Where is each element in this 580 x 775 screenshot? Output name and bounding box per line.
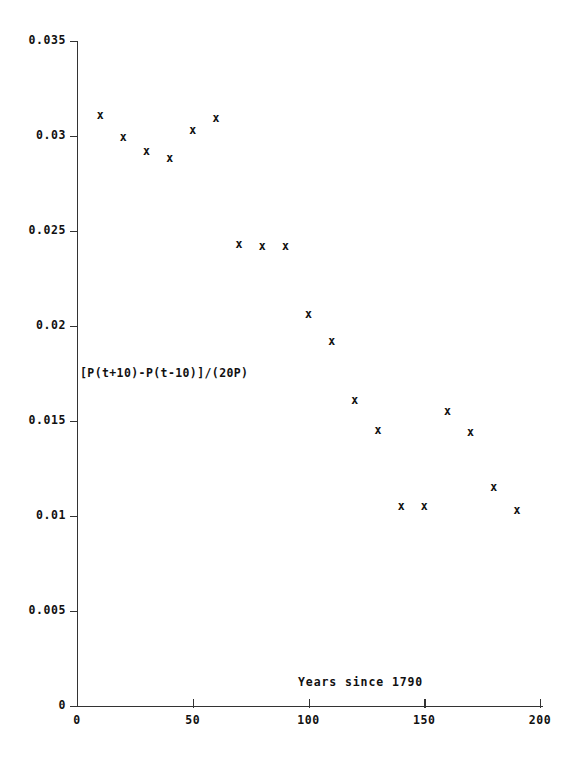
x-axis-tick: [424, 699, 425, 708]
data-point-marker: x: [465, 426, 477, 439]
data-point-marker: x: [349, 394, 361, 407]
data-point-marker: x: [511, 504, 523, 517]
y-axis-tick: [70, 421, 78, 422]
y-axis-tick: [70, 706, 78, 707]
data-point-marker: x: [187, 124, 199, 137]
y-axis-tick: [70, 611, 78, 612]
x-axis-tick: [193, 699, 194, 708]
y-axis-tick-label: 0: [0, 700, 66, 712]
x-axis-tick: [309, 699, 310, 708]
y-axis-tick: [70, 326, 78, 327]
data-point-marker: x: [418, 500, 430, 513]
y-axis-tick: [70, 136, 78, 137]
y-axis-line: [77, 41, 78, 707]
x-axis-tick-label: 0: [47, 715, 107, 727]
x-axis-tick-label: 150: [394, 715, 454, 727]
y-axis-tick-label: 0.02: [0, 320, 66, 332]
y-axis-tick-label: 0.01: [0, 510, 66, 522]
x-axis-line: [77, 706, 543, 707]
y-axis-tick-label: 0.005: [0, 605, 66, 617]
x-axis-tick-label: 200: [510, 715, 570, 727]
y-axis-label: [P(t+10)-P(t-10)]/(20P): [80, 366, 248, 380]
data-point-marker: x: [164, 152, 176, 165]
y-axis-tick: [70, 231, 78, 232]
data-point-marker: x: [303, 308, 315, 321]
y-axis-tick-label: 0.035: [0, 35, 66, 47]
data-point-marker: x: [117, 131, 129, 144]
data-point-marker: x: [279, 240, 291, 253]
data-point-marker: x: [210, 112, 222, 125]
data-point-marker: x: [233, 238, 245, 251]
y-axis-tick: [70, 516, 78, 517]
data-point-marker: x: [256, 240, 268, 253]
scatter-plot-figure: 00.0050.010.0150.020.0250.030.035 050100…: [0, 0, 580, 775]
y-axis-tick-label: 0.015: [0, 415, 66, 427]
data-point-marker: x: [372, 424, 384, 437]
data-point-marker: x: [441, 405, 453, 418]
x-axis-tick: [540, 699, 541, 708]
x-axis-tick-label: 50: [163, 715, 223, 727]
data-point-marker: x: [488, 481, 500, 494]
data-point-marker: x: [395, 500, 407, 513]
data-point-marker: x: [140, 145, 152, 158]
y-axis-tick: [70, 41, 78, 42]
x-axis-label: Years since 1790: [298, 675, 423, 689]
data-point-marker: x: [94, 109, 106, 122]
x-axis-tick-label: 100: [279, 715, 339, 727]
y-axis-tick-label: 0.03: [0, 130, 66, 142]
data-point-marker: x: [326, 335, 338, 348]
y-axis-tick-label: 0.025: [0, 225, 66, 237]
